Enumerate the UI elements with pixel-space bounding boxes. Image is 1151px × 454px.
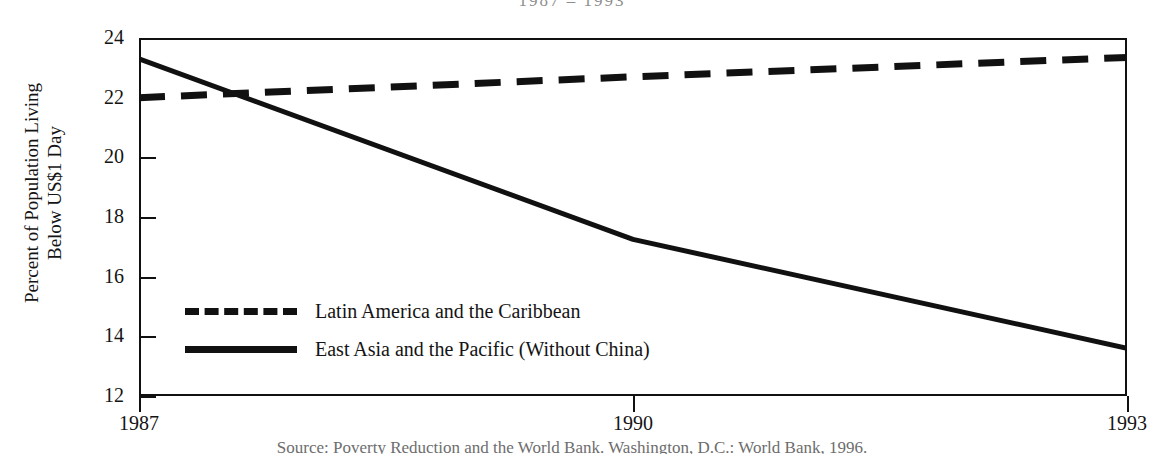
x-tick-mark — [1127, 396, 1129, 412]
x-tick-label: 1990 — [588, 412, 678, 434]
x-tick-mark — [139, 396, 141, 412]
source-caption-clipped: Source: Poverty Reduction and the World … — [0, 438, 1144, 454]
y-tick-label: 22 — [82, 87, 124, 107]
y-axis-title-line1: Percent of Population Living — [21, 83, 42, 303]
y-tick-label: 16 — [82, 266, 124, 286]
chart-title-clipped: 1987 – 1993 — [0, 0, 1144, 9]
y-tick-label: 18 — [82, 206, 124, 226]
y-tick-mark — [139, 396, 156, 398]
y-axis-title-line2: Below US$1 Day — [43, 28, 66, 358]
y-tick-label: 20 — [82, 146, 124, 166]
series-line-dashed — [139, 57, 1127, 97]
x-tick-label: 1987 — [94, 412, 184, 434]
legend-swatch-solid-icon — [185, 346, 297, 353]
legend-label-east-asia: East Asia and the Pacific (Without China… — [315, 330, 650, 368]
y-tick-label: 14 — [82, 325, 124, 345]
legend-item-latin-america: Latin America and the Caribbean — [185, 292, 650, 330]
legend-swatch-dashed-icon — [185, 308, 297, 315]
y-axis-title: Percent of Population Living Below US$1 … — [20, 28, 66, 358]
y-tick-label: 12 — [82, 385, 124, 405]
y-tick-label: 24 — [82, 27, 124, 47]
x-tick-mark — [633, 396, 635, 412]
legend-label-latin-america: Latin America and the Caribbean — [315, 292, 580, 330]
legend-item-east-asia: East Asia and the Pacific (Without China… — [185, 330, 650, 368]
x-tick-label: 1993 — [1082, 412, 1151, 434]
chart-legend: Latin America and the Caribbean East Asi… — [185, 292, 650, 368]
